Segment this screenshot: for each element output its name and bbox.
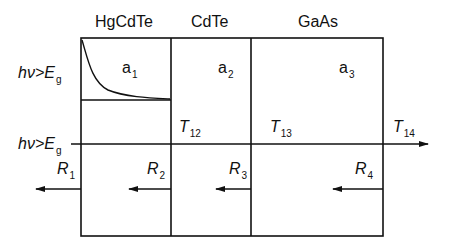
material-label-hgcdte: HgCdTe xyxy=(95,14,153,30)
reflection-label-3: R3 xyxy=(229,161,247,181)
material-label-gaas: GaAs xyxy=(298,14,338,30)
transmission-label-12: T12 xyxy=(179,119,201,139)
absorption-label-3: a3 xyxy=(339,60,354,80)
reflection-label-1: R1 xyxy=(57,161,75,181)
reflection-label-2: R2 xyxy=(147,161,165,181)
row-label-bottom: hν>Eg xyxy=(18,136,61,156)
absorption-label-1: a1 xyxy=(122,60,137,80)
transmission-label-13: T13 xyxy=(270,119,292,139)
row-label-top: hν>Eg xyxy=(18,65,61,85)
diagram-canvas xyxy=(0,0,450,249)
reflection-label-4: R4 xyxy=(355,161,373,181)
transmission-label-14: T14 xyxy=(393,119,415,139)
absorption-label-2: a2 xyxy=(218,60,233,80)
material-label-cdte: CdTe xyxy=(191,14,228,30)
